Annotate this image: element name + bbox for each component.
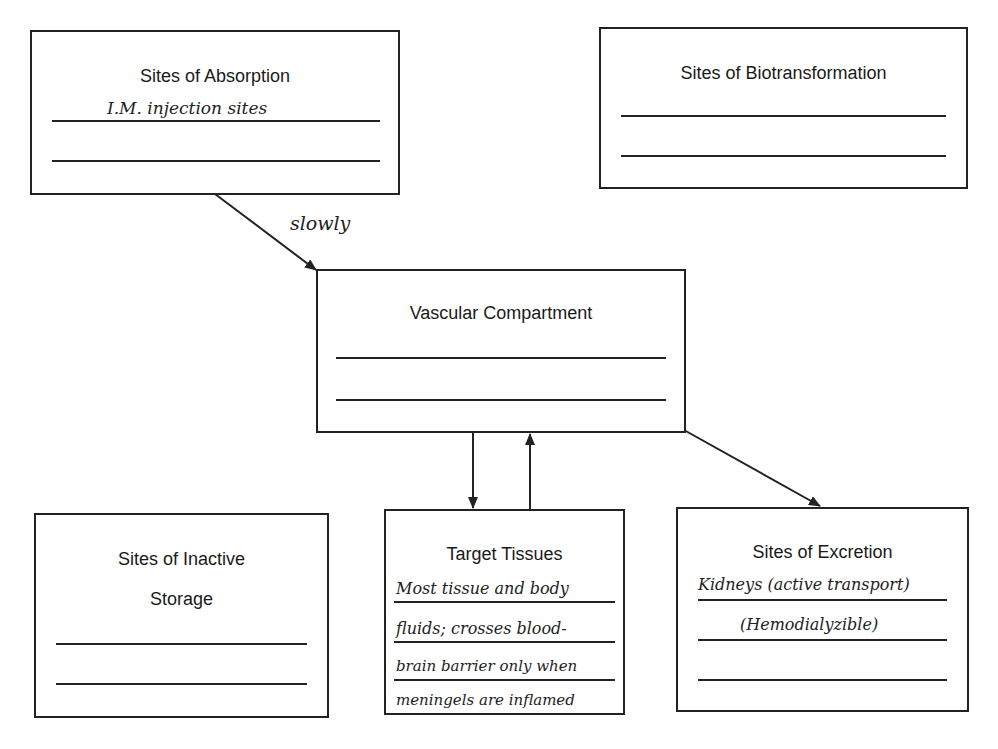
entry-line-2 [621,155,946,157]
entry-text-3: brain barrier only when [396,657,577,675]
entry-text-1: Most tissue and body [396,579,569,598]
box-title: Sites of Excretion [678,542,967,563]
entry-line-1 [52,120,380,122]
entry-line-1 [621,115,946,117]
box-title: Sites of Biotransformation [601,63,966,84]
entry-line-2 [52,160,380,162]
box-sites-of-biotransformation: Sites of Biotransformation [599,27,968,189]
arrow-label-slowly: slowly [290,212,350,234]
box-title: Vascular Compartment [318,303,684,324]
box-title-line2: Storage [36,589,327,610]
entry-line-2 [394,641,615,643]
entry-line-1 [394,601,615,603]
entry-line-1 [56,643,307,645]
entry-text-2: fluids; crosses blood- [396,619,567,638]
box-sites-of-excretion: Sites of Excretion Kidneys (active trans… [676,507,969,712]
entry-line-1 [698,599,947,601]
box-title: Sites of Absorption [32,66,398,87]
arrow-vascular-to-excretion [684,430,820,506]
box-vascular-compartment: Vascular Compartment [316,269,686,433]
box-title-line1: Sites of Inactive [36,549,327,570]
box-sites-of-inactive-storage: Sites of Inactive Storage [34,513,329,718]
box-target-tissues: Target Tissues Most tissue and body flui… [384,509,625,715]
entry-line-2 [336,399,666,401]
entry-line-3 [698,679,947,681]
box-sites-of-absorption: Sites of Absorption I.M. injection sites [30,30,400,195]
entry-text: I.M. injection sites [107,98,267,118]
entry-text-4: meningels are inflamed [396,691,575,709]
entry-line-2 [56,683,307,685]
entry-text-2: (Hemodialyzible) [740,615,878,634]
entry-line-1 [336,357,666,359]
box-title: Target Tissues [386,544,623,565]
entry-line-2 [698,639,947,641]
entry-line-3 [394,679,615,681]
entry-text-1: Kidneys (active transport) [698,575,910,594]
